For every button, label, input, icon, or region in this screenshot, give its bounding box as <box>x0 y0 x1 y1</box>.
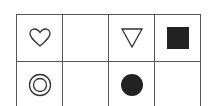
cell-r2-c1 <box>17 62 63 106</box>
heart-icon <box>29 28 51 48</box>
shape-grid <box>16 14 201 106</box>
cell-r1-c2 <box>63 15 109 62</box>
filled-circle-icon <box>120 73 144 97</box>
cell-r2-c4 <box>155 62 201 106</box>
cell-r1-c4 <box>155 15 201 62</box>
cell-r1-c3 <box>109 15 155 62</box>
double-circle-icon <box>28 73 52 97</box>
down-triangle-icon <box>121 28 143 48</box>
cell-r1-c1 <box>17 15 63 62</box>
cell-r2-c2 <box>63 62 109 106</box>
cell-r2-c3 <box>109 62 155 106</box>
filled-square-icon <box>167 27 189 49</box>
